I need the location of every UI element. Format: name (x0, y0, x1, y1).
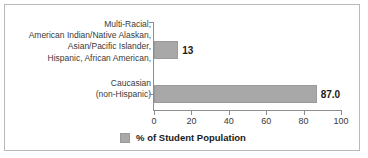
category-label-line: Hispanic, African American, (29, 53, 151, 64)
x-axis-line (153, 110, 342, 111)
x-tick-mark-0 (154, 111, 155, 115)
x-tick-mark-80 (304, 111, 305, 115)
bar-caucasian[interactable] (154, 85, 317, 103)
plot-area: 13 87.0 (154, 23, 341, 110)
category-axis-labels: Multi-Racial, American Indian/Native Ala… (13, 5, 151, 125)
x-tick-label-20: 20 (186, 116, 196, 126)
x-tick-label-40: 40 (224, 116, 234, 126)
bar-minority[interactable] (154, 41, 178, 59)
chart-frame: Multi-Racial, American Indian/Native Ala… (4, 4, 360, 151)
x-tick-label-100: 100 (333, 116, 348, 126)
x-tick-label-0: 0 (151, 116, 156, 126)
legend-label: % of Student Population (136, 132, 246, 143)
x-tick-mark-40 (229, 111, 230, 115)
x-tick-label-60: 60 (261, 116, 271, 126)
x-tick-mark-20 (191, 111, 192, 115)
category-label-line: American Indian/Native Alaskan, (29, 30, 151, 41)
category-label-minority: Multi-Racial, American Indian/Native Ala… (29, 19, 151, 64)
legend-swatch-icon (120, 133, 130, 143)
bar-value-caucasian: 87.0 (317, 89, 340, 100)
x-tick-mark-100 (341, 111, 342, 115)
chart-legend: % of Student Population (5, 132, 361, 143)
x-tick-label-80: 80 (299, 116, 309, 126)
category-label-line: Asian/Pacific Islander, (29, 41, 151, 52)
bar-row: 13 (154, 41, 341, 59)
x-tick-mark-60 (266, 111, 267, 115)
category-label-line: (non-Hispanic) (96, 89, 151, 100)
category-label-line: Multi-Racial, (29, 19, 151, 30)
bar-value-minority: 13 (178, 45, 193, 56)
bar-row: 87.0 (154, 85, 341, 103)
category-label-caucasian: Caucasian (non-Hispanic) (96, 78, 151, 100)
category-label-line: Caucasian (96, 78, 151, 89)
